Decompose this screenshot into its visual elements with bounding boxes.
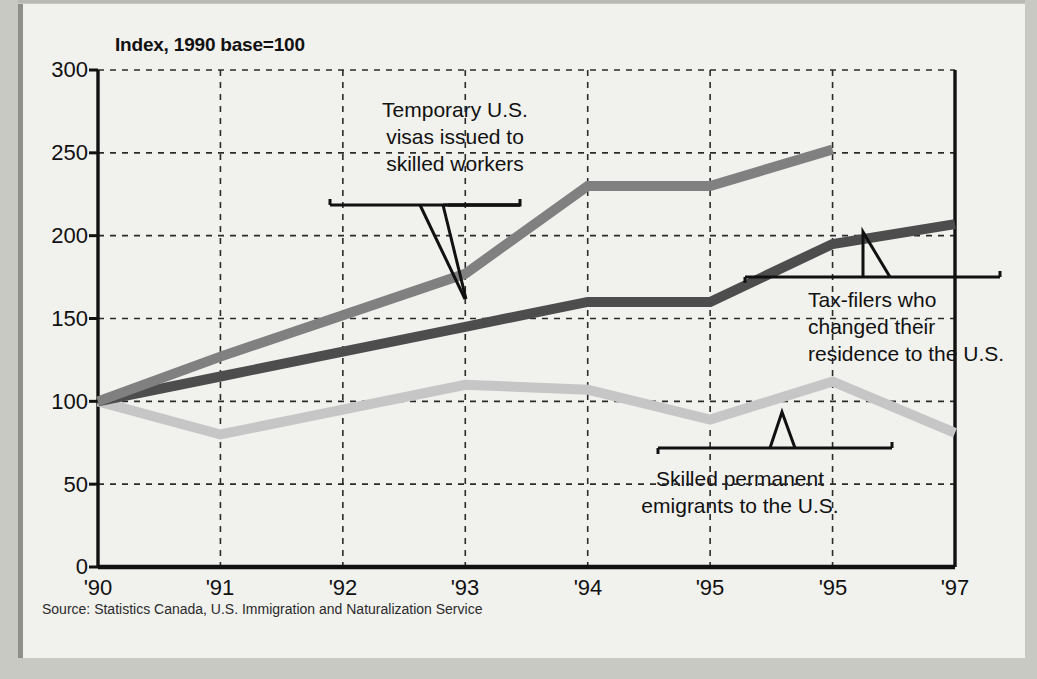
annotation-skilled-emigrants: Skilled permanent emigrants to the U.S. bbox=[590, 466, 890, 520]
x-tick-94: '94 bbox=[574, 575, 603, 601]
annotation-taxfilers-line-2: changed their bbox=[808, 314, 1037, 341]
y-tick-300: 300 bbox=[51, 57, 88, 83]
annotation-taxfilers-line-1: Tax-filers who bbox=[808, 287, 1037, 314]
x-tick-95b: '95 bbox=[819, 575, 848, 601]
annotation-emigrants-line-1: Skilled permanent bbox=[590, 466, 890, 493]
annotation-tax-filers: Tax-filers who changed their residence t… bbox=[808, 287, 1037, 368]
annotation-temporary-visas: Temporary U.S. visas issued to skilled w… bbox=[310, 97, 600, 178]
x-tick-95a: '95 bbox=[696, 575, 725, 601]
y-tick-100: 100 bbox=[51, 389, 88, 415]
x-tick-97: '97 bbox=[941, 575, 970, 601]
page-top-rule bbox=[18, 0, 1025, 3]
chart-page: 300 250 200 150 100 50 0 '90 '91 '92 '93… bbox=[0, 0, 1037, 679]
x-tick-93: '93 bbox=[451, 575, 480, 601]
x-tick-90: '90 bbox=[84, 575, 113, 601]
source-note: Source: Statistics Canada, U.S. Immigrat… bbox=[42, 601, 482, 617]
y-tick-250: 250 bbox=[51, 140, 88, 166]
annotation-temporary-line-3: skilled workers bbox=[310, 151, 600, 178]
y-tick-200: 200 bbox=[51, 223, 88, 249]
annotation-temporary-line-1: Temporary U.S. bbox=[310, 97, 600, 124]
axis-note-index-base: Index, 1990 base=100 bbox=[115, 34, 305, 56]
y-tick-50: 50 bbox=[64, 472, 88, 498]
annotation-temporary-line-2: visas issued to bbox=[310, 124, 600, 151]
y-tick-150: 150 bbox=[51, 306, 88, 332]
annotation-emigrants-line-2: emigrants to the U.S. bbox=[590, 493, 890, 520]
x-tick-91: '91 bbox=[206, 575, 235, 601]
annotation-taxfilers-line-3: residence to the U.S. bbox=[808, 341, 1037, 368]
x-tick-92: '92 bbox=[329, 575, 358, 601]
